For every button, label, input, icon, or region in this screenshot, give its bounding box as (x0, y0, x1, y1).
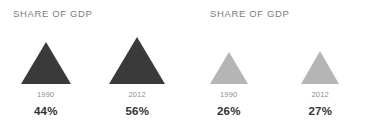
triangle-glyph-left-1990 (21, 42, 71, 84)
value-label-left-2012: 56% (125, 105, 149, 118)
chart-panel-right: SHARE OF GDP 1990 26% 2012 27% (183, 0, 366, 131)
panel-title-right: SHARE OF GDP (210, 8, 290, 19)
triangle-slot (275, 30, 366, 84)
year-label-right-1990: 1990 (220, 90, 238, 100)
chart-panel-left: SHARE OF GDP 1990 44% 2012 56% (0, 0, 183, 131)
panel-title-left: SHARE OF GDP (13, 8, 93, 19)
triangle-group-container-right: 1990 26% 2012 27% (183, 30, 366, 131)
triangle-group-container-left: 1990 44% 2012 56% (0, 30, 183, 131)
year-label-right-2012: 2012 (312, 90, 330, 100)
data-group-right-1990: 1990 26% (183, 30, 275, 131)
triangle-glyph-right-2012 (301, 51, 339, 84)
triangle-slot (92, 30, 184, 84)
share-of-gdp-infographic: SHARE OF GDP 1990 44% 2012 56% SHARE OF … (0, 0, 366, 131)
triangle-glyph-right-1990 (210, 52, 248, 84)
data-group-left-1990: 1990 44% (0, 30, 92, 131)
triangle-slot (183, 30, 275, 84)
data-group-right-2012: 2012 27% (275, 30, 366, 131)
triangle-glyph-left-2012 (109, 37, 165, 84)
value-label-right-1990: 26% (217, 105, 241, 118)
value-label-right-2012: 27% (308, 105, 332, 118)
data-group-left-2012: 2012 56% (92, 30, 184, 131)
year-label-left-2012: 2012 (129, 90, 147, 100)
value-label-left-1990: 44% (34, 105, 58, 118)
year-label-left-1990: 1990 (37, 90, 55, 100)
triangle-slot (0, 30, 92, 84)
